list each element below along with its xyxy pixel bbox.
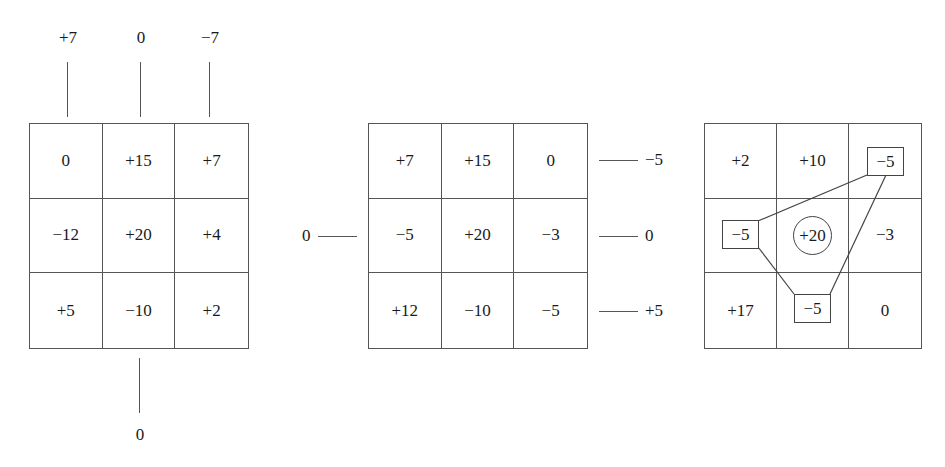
- right-label-row2: 0: [645, 226, 654, 246]
- grid-cell: +20: [442, 199, 515, 274]
- top-label-col3: −7: [197, 28, 223, 48]
- grid-cell: +10: [777, 124, 849, 199]
- connector-line: [209, 62, 210, 117]
- right-label-row3: +5: [645, 301, 663, 321]
- grid-cell: −10: [103, 273, 176, 348]
- grid-cell: +7: [369, 124, 442, 199]
- grid-cell: +2: [705, 124, 777, 199]
- grid-cell: +20: [103, 199, 176, 274]
- grid-cell: +12: [369, 273, 442, 348]
- grid-cell: −5: [514, 273, 587, 348]
- grid-cell: 0: [30, 124, 103, 199]
- grid-cell: +15: [442, 124, 515, 199]
- connector-line: [67, 62, 68, 117]
- grid-cell: 0: [849, 273, 921, 348]
- left-label: 0: [302, 226, 311, 246]
- top-label-col2: 0: [128, 28, 154, 48]
- grid-cell: −3: [849, 199, 921, 274]
- grid-cell: −5: [369, 199, 442, 274]
- right-label-row1: −5: [645, 150, 663, 170]
- grid-cell: +5: [30, 273, 103, 348]
- grid-cell: +4: [175, 199, 248, 274]
- circled-value-center: +20: [793, 216, 832, 255]
- connector-line: [318, 236, 357, 237]
- boxed-value-middle-left: −5: [722, 220, 759, 249]
- top-label-col1: +7: [55, 28, 81, 48]
- grid-cell: +15: [103, 124, 176, 199]
- grid-cell: +17: [705, 273, 777, 348]
- connector-line: [139, 358, 140, 413]
- grid-2: +7 +15 0 −5 +20 −3 +12 −10 −5: [368, 123, 588, 349]
- grid-cell: −10: [442, 273, 515, 348]
- grid-1: 0 +15 +7 −12 +20 +4 +5 −10 +2: [29, 123, 249, 349]
- connector-line: [599, 311, 638, 312]
- connector-line: [140, 62, 141, 117]
- grid-cell: −3: [514, 199, 587, 274]
- bottom-label: 0: [127, 425, 153, 445]
- connector-line: [599, 160, 638, 161]
- grid-cell: +7: [175, 124, 248, 199]
- grid-cell: −12: [30, 199, 103, 274]
- connector-line: [599, 236, 638, 237]
- boxed-value-top-right: −5: [867, 147, 904, 176]
- grid-cell: 0: [514, 124, 587, 199]
- grid-cell: +2: [175, 273, 248, 348]
- boxed-value-bottom-middle: −5: [794, 294, 831, 323]
